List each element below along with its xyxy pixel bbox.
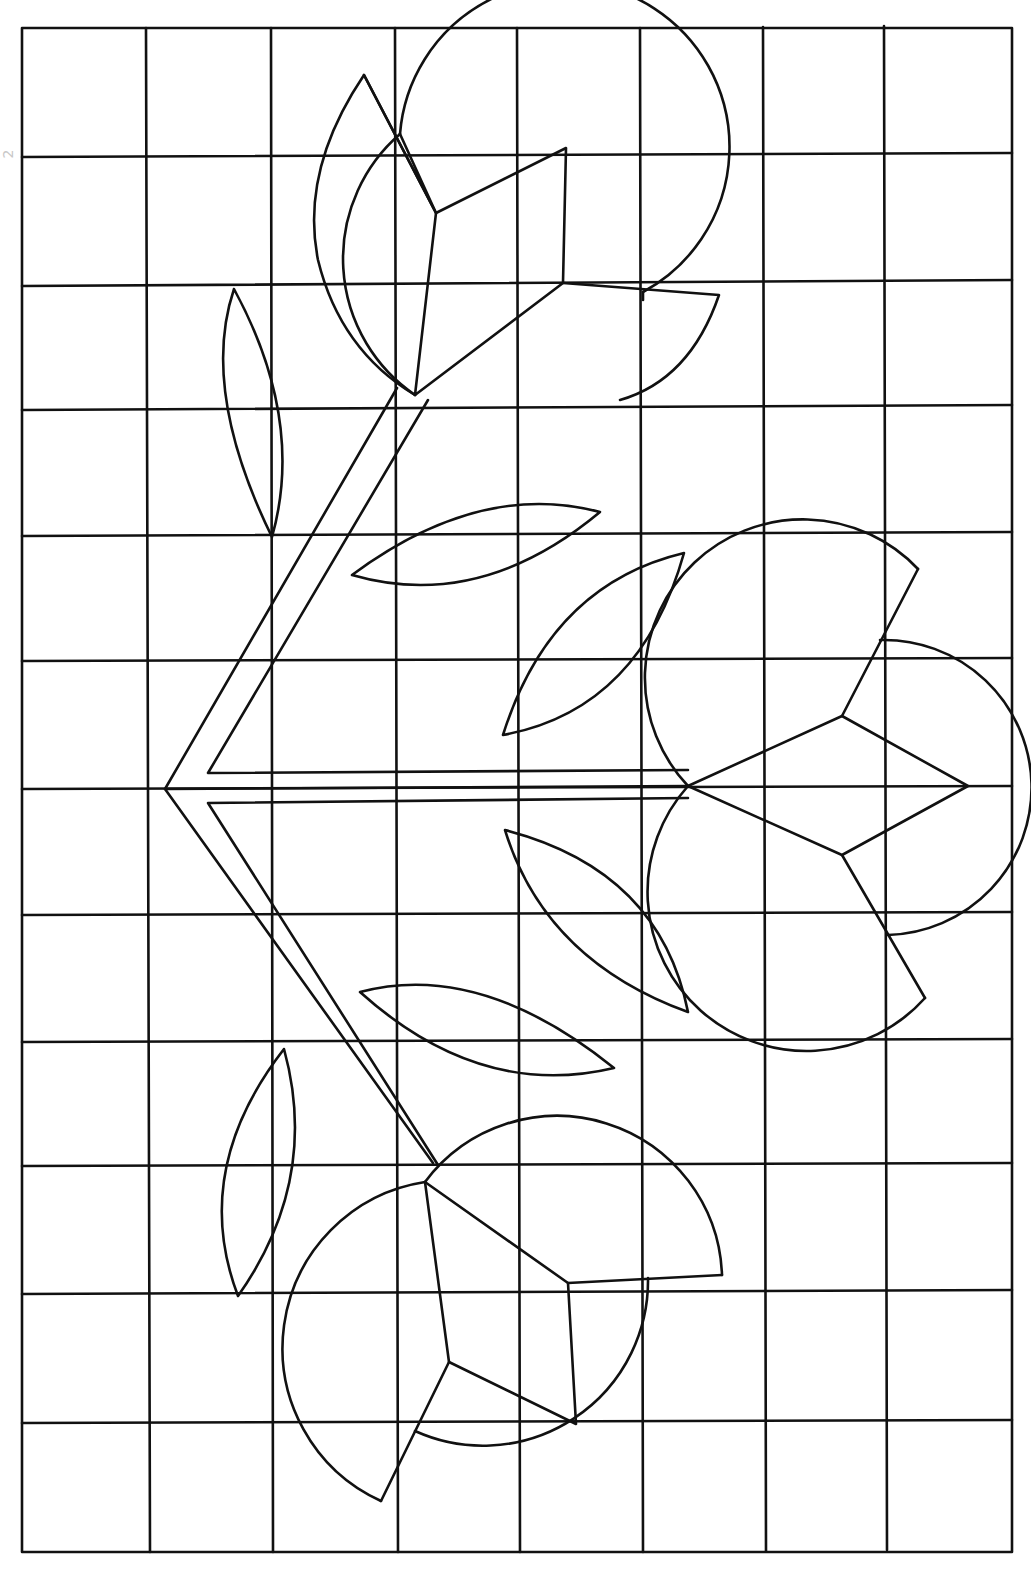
leaves [222, 289, 688, 1296]
stem-center [165, 786, 688, 789]
leaf-lower-diagonal [505, 830, 688, 1012]
flower-bottom-facets [449, 1283, 576, 1424]
flower-bottom-upper-arc [425, 1116, 722, 1275]
leaf-upper-left [223, 289, 282, 537]
flower-middle-upper-arc [645, 519, 918, 786]
grid-drawing [0, 0, 1031, 1577]
stem-lower-inner [208, 798, 688, 1165]
petal-top-left [314, 75, 436, 395]
flower-top [314, 0, 729, 400]
stem-outer [165, 388, 433, 1163]
flower-top-facets [415, 148, 566, 395]
leaf-upper-diagonal [503, 553, 684, 735]
flower-bottom [283, 1116, 722, 1501]
stem-upper-inner [208, 400, 688, 773]
leaf-upper-horizontal [352, 504, 600, 585]
stem [165, 388, 688, 1165]
leaf-lower-left [222, 1049, 295, 1296]
